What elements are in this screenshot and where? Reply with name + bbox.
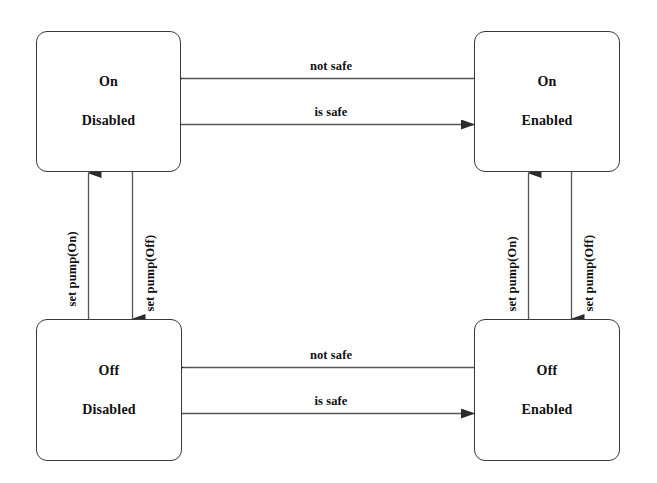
state-label-primary: On — [99, 75, 118, 89]
transition-label-left-set-pump-on: set pump(On) — [66, 231, 79, 306]
transition-label-top-is-safe: is safe — [315, 106, 348, 119]
transition-label-bottom-is-safe: is safe — [315, 395, 348, 408]
transition-label-right-set-pump-on: set pump(On) — [506, 236, 519, 311]
transition-label-bottom-not-safe: not safe — [310, 349, 352, 362]
state-label-secondary: Disabled — [82, 403, 136, 417]
state-box-on-enabled[interactable]: On Enabled — [474, 31, 620, 172]
transition-label-left-set-pump-off: set pump(Off) — [144, 235, 157, 312]
state-label-secondary: Enabled — [521, 114, 572, 128]
state-label-secondary: Enabled — [521, 403, 572, 417]
transition-label-top-not-safe: not safe — [310, 60, 352, 73]
state-diagram: On Disabled On Enabled Off Disabled Off … — [0, 0, 657, 483]
state-box-off-enabled[interactable]: Off Enabled — [474, 319, 620, 461]
transition-label-right-set-pump-off: set pump(Off) — [583, 235, 596, 312]
state-box-off-disabled[interactable]: Off Disabled — [36, 319, 182, 461]
state-box-on-disabled[interactable]: On Disabled — [36, 31, 181, 172]
state-label-primary: On — [537, 75, 556, 89]
state-label-primary: Off — [537, 364, 558, 378]
state-label-primary: Off — [99, 364, 120, 378]
state-label-secondary: Disabled — [82, 114, 136, 128]
